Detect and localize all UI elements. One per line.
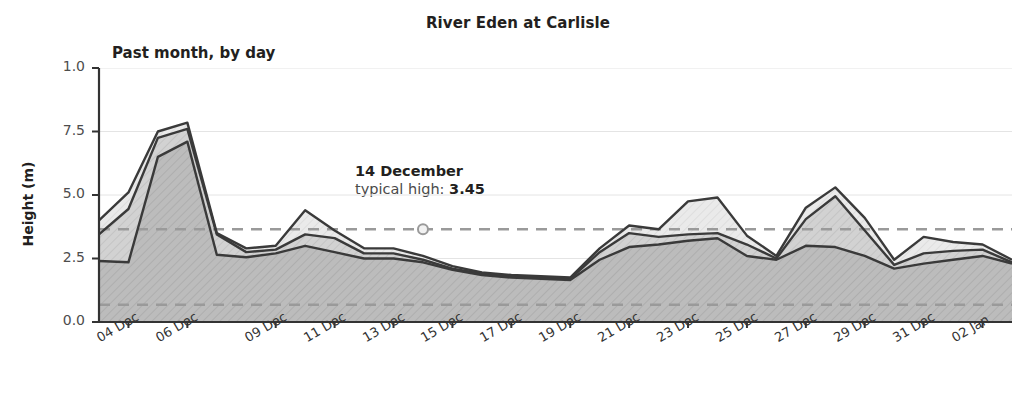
chart-container: River Eden at Carlisle Past month, by da… bbox=[0, 0, 1036, 404]
annotation-marker bbox=[418, 224, 428, 234]
chart-title: River Eden at Carlisle bbox=[0, 14, 1036, 32]
plot-area bbox=[99, 68, 1012, 322]
y-tick-label: 1.0 bbox=[25, 59, 85, 73]
data-bands bbox=[99, 123, 1012, 322]
annotation-marker-dot bbox=[418, 224, 428, 234]
y-tick-label: 5.0 bbox=[25, 186, 85, 200]
y-tick-label: 0.0 bbox=[25, 313, 85, 327]
y-axis-title: Height (m) bbox=[20, 114, 36, 294]
chart-svg bbox=[99, 68, 1012, 322]
y-tick-label: 7.5 bbox=[25, 123, 85, 137]
y-tick-label: 2.5 bbox=[25, 250, 85, 264]
chart-subtitle: Past month, by day bbox=[112, 44, 275, 62]
